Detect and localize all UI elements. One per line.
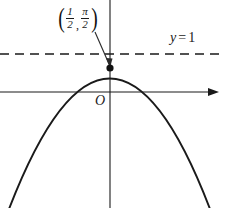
coordinate-point-label: ( 1 2 , π 2 ): [57, 6, 99, 30]
origin-label: O: [95, 94, 105, 108]
right-paren-glyph: ): [91, 7, 97, 29]
fraction-one-half: 1 2: [65, 6, 75, 30]
fraction-numerator: 1: [67, 6, 73, 17]
vertex-point-marker: [106, 64, 113, 71]
coordinate-separator: ,: [76, 19, 79, 31]
fraction-denominator: 2: [67, 19, 73, 30]
parabola-figure: ( 1 2 , π 2 ) y=1 O: [0, 0, 225, 208]
equation-variable: y: [170, 30, 176, 45]
fraction-denominator: 2: [82, 19, 88, 30]
fraction-pi-over-two: π 2: [80, 6, 90, 30]
equation-equals-sign: =: [178, 30, 186, 45]
fraction-numerator: π: [82, 6, 88, 17]
x-axis-arrowhead-icon: [208, 88, 219, 96]
equation-value: 1: [188, 30, 195, 45]
left-paren-glyph: (: [58, 7, 64, 29]
line-equation-label: y=1: [170, 31, 195, 45]
